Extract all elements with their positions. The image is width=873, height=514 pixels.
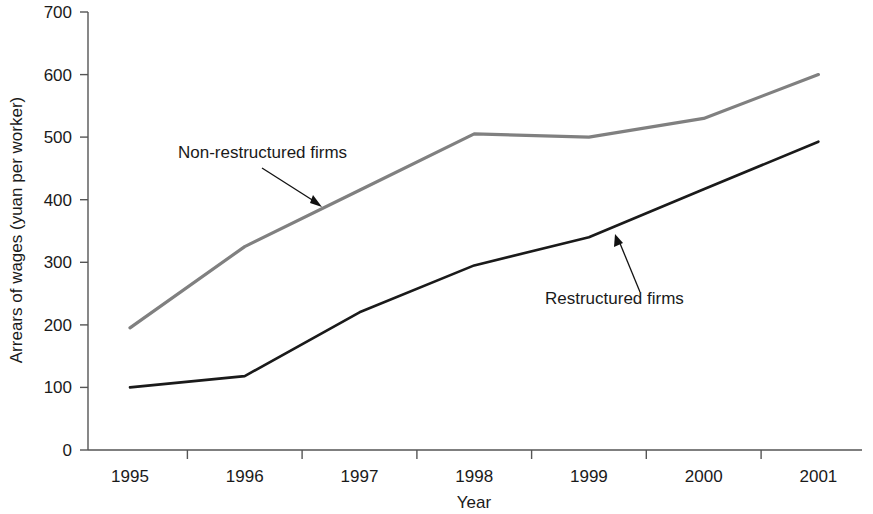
x-tick-label-1996: 1996 (226, 467, 264, 486)
x-tick-label-1998: 1998 (455, 467, 493, 486)
y-tick-label-100: 100 (44, 378, 72, 397)
line-chart: 700 600 500 400 300 200 100 0 1995 1996 … (0, 0, 873, 514)
annotation-label-restructured-firms: Restructured firms (545, 289, 684, 308)
x-tick-label-1997: 1997 (341, 467, 379, 486)
annotation-arrow-head-restructured (614, 234, 623, 247)
annotation-arrow-line-restructured (619, 241, 640, 292)
y-tick-label-0: 0 (63, 441, 72, 460)
x-axis-title: Year (457, 493, 492, 512)
annotation-arrow-line-non-restructured (262, 168, 317, 203)
y-tick-label-700: 700 (44, 3, 72, 22)
x-tick-label-1999: 1999 (570, 467, 608, 486)
x-tick-label-2001: 2001 (799, 467, 837, 486)
series-line-non-restructured-firms (130, 75, 818, 328)
annotation-label-non-restructured-firms: Non-restructured firms (178, 143, 347, 162)
y-axis-tick-labels: 700 600 500 400 300 200 100 0 (44, 3, 72, 460)
y-tick-label-300: 300 (44, 253, 72, 272)
x-tick-label-2000: 2000 (685, 467, 723, 486)
x-tick-label-1995: 1995 (111, 467, 149, 486)
annotation-arrow-head-non-restructured (310, 195, 322, 207)
x-axis-ticks (187, 450, 761, 459)
y-axis-ticks (80, 12, 88, 450)
y-tick-label-500: 500 (44, 128, 72, 147)
x-axis-tick-labels: 1995 1996 1997 1998 1999 2000 2001 (111, 467, 837, 486)
y-tick-label-600: 600 (44, 66, 72, 85)
y-tick-label-200: 200 (44, 316, 72, 335)
annotation-non-restructured-firms: Non-restructured firms (178, 143, 347, 207)
series-line-restructured-firms (130, 142, 818, 388)
annotation-restructured-firms: Restructured firms (545, 234, 684, 308)
y-tick-label-400: 400 (44, 191, 72, 210)
y-axis-title: Arrears of wages (yuan per worker) (7, 97, 26, 363)
